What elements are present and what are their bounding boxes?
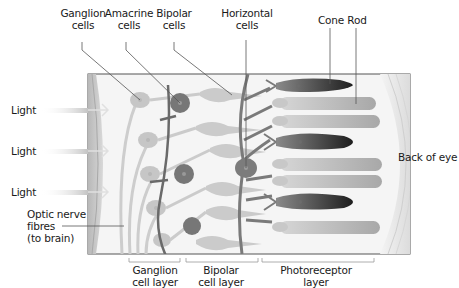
- label-optic-nerve-fibres: Optic nerve fibres (to brain): [27, 208, 86, 244]
- label-bipolar-cell-layer: Bipolar cell layer: [194, 264, 248, 288]
- label-photoreceptor-layer: Photoreceptor layer: [276, 264, 356, 288]
- label-light-1: Light: [11, 104, 36, 116]
- label-ganglion-cell-layer: Ganglion cell layer: [128, 264, 182, 288]
- label-light-3: Light: [11, 186, 36, 198]
- label-back-of-eye: Back of eye: [398, 151, 457, 163]
- label-bipolar-cells: Bipolar cells: [154, 7, 194, 31]
- label-cone: Cone: [316, 14, 346, 26]
- label-light-2: Light: [11, 145, 36, 157]
- label-horizontal-cells: Horizontal cells: [218, 7, 276, 31]
- label-ganglion-cells: Ganglion cells: [60, 7, 106, 31]
- label-amacrine-cells: Amacrine cells: [104, 7, 154, 31]
- layer-brackets: [129, 258, 374, 262]
- light-arrows: [40, 108, 88, 195]
- label-rod: Rod: [344, 14, 370, 26]
